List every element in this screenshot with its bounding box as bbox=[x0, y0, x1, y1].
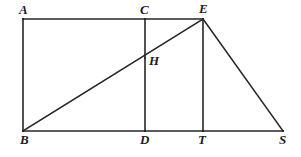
vertex-dot-a bbox=[22, 18, 24, 20]
vertex-label-e: E bbox=[199, 2, 208, 15]
vertex-label-s: S bbox=[279, 133, 286, 146]
vertex-dot-h bbox=[144, 57, 146, 59]
figure-svg bbox=[0, 0, 301, 157]
segment-be bbox=[23, 19, 203, 131]
segment-layer bbox=[23, 19, 283, 131]
vertex-dot-c bbox=[144, 18, 146, 20]
vertex-dot-layer bbox=[22, 18, 284, 132]
geometry-diagram: ACEHBDTS bbox=[0, 0, 301, 157]
segment-es bbox=[203, 19, 283, 131]
vertex-label-c: C bbox=[140, 3, 149, 16]
vertex-label-a: A bbox=[19, 3, 28, 16]
vertex-label-h: H bbox=[149, 54, 159, 67]
vertex-label-t: T bbox=[198, 133, 206, 146]
vertex-label-d: D bbox=[140, 133, 149, 146]
vertex-label-b: B bbox=[20, 133, 29, 146]
vertex-dot-e bbox=[202, 18, 204, 20]
